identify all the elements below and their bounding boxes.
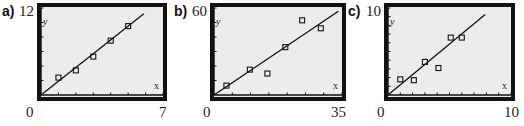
plots-canvas: yxyxyx	[0, 0, 524, 126]
y-axis-label: y	[42, 16, 48, 27]
plot-frame	[386, 5, 513, 99]
x-axis-label: x	[333, 80, 338, 91]
y-axis-label: y	[389, 16, 395, 27]
y-axis-label: y	[215, 16, 221, 27]
x-axis-label: x	[502, 80, 507, 91]
plot-frame	[39, 5, 165, 99]
x-axis-label: x	[154, 80, 159, 91]
